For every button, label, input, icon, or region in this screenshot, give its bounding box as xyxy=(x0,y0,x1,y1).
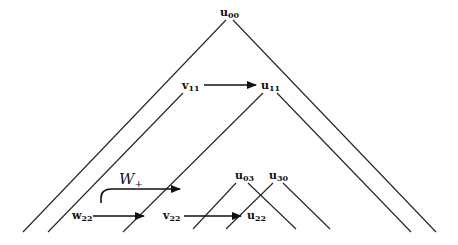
cone-u00-left-edge xyxy=(23,20,226,232)
node-w22: w22 xyxy=(71,209,93,223)
cone-u00-right-edge xyxy=(233,20,436,232)
cone-u11-right-edge xyxy=(277,93,411,232)
node-u22: u22 xyxy=(247,209,266,223)
curve-arrow-w-plus xyxy=(101,189,180,203)
cone-u03-left-edge xyxy=(193,183,236,229)
cone-u30-right-edge xyxy=(283,183,330,229)
node-u30: u30 xyxy=(269,169,289,183)
node-u03: u03 xyxy=(235,169,255,183)
node-v22: v22 xyxy=(162,209,181,223)
node-v11: v11 xyxy=(181,79,200,93)
node-u00: u00 xyxy=(220,6,240,20)
node-u11: u11 xyxy=(261,79,280,93)
cone-u11-left-edge xyxy=(123,93,263,232)
light-cone-diagram: u00 v11 u11 u03 u30 w22 v22 u22 W+ xyxy=(0,0,458,245)
label-w-plus: W+ xyxy=(119,170,143,189)
